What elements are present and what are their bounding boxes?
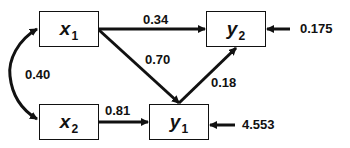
node-y1: y1 xyxy=(149,104,209,140)
label-x2-y1: 0.81 xyxy=(105,103,130,118)
node-x2: x2 xyxy=(39,104,99,140)
label-x1-y1: 0.70 xyxy=(145,52,170,67)
label-y1-y2: 0.18 xyxy=(211,75,236,90)
node-y2: y2 xyxy=(206,11,266,47)
label-correlation: 0.40 xyxy=(25,67,50,82)
node-x1: x1 xyxy=(39,11,99,47)
label-error-y2: 0.175 xyxy=(300,21,333,36)
label-x1-y2: 0.34 xyxy=(143,12,168,27)
label-error-y1: 4.553 xyxy=(242,117,275,132)
